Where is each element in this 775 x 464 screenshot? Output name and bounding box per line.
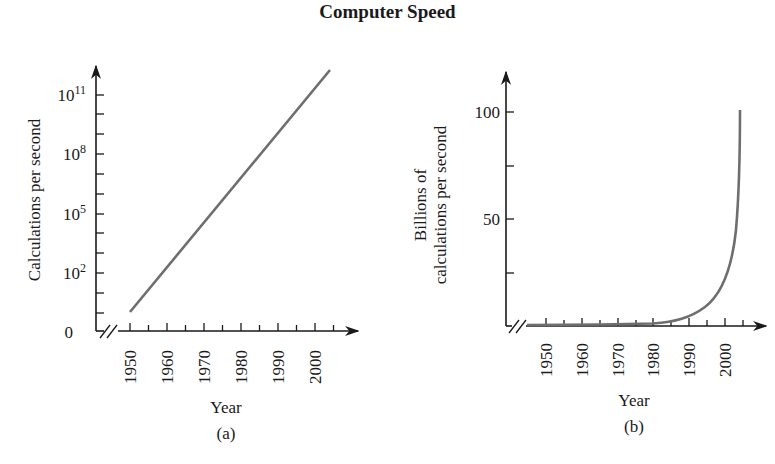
panel-b-x-label: 1990 (680, 343, 699, 377)
panel-b-x-label: 2000 (716, 343, 735, 377)
panel-b-y-axis-title-line1: Billions of (411, 169, 430, 242)
panel-a-x-label: 1970 (195, 350, 214, 384)
panel-b-x-label: 1960 (573, 343, 592, 377)
panel-b: 100 50 Billions of calculations per seco… (411, 72, 766, 436)
panel-b-y-axis-title-line2: calculations per second (431, 125, 450, 284)
panel-a-y-label-1e11: 1011 (57, 83, 86, 105)
panel-a-x-label: 1960 (158, 350, 177, 384)
panel-b-x-axis-title: Year (618, 391, 650, 410)
panel-a-x-label: 1950 (121, 350, 140, 384)
panel-a: 1011 108 105 102 0 Calculations per seco… (25, 66, 358, 443)
panel-b-y-label-50: 50 (483, 210, 500, 229)
panel-a-data-line (130, 70, 330, 312)
panel-a-x-ticks (130, 323, 334, 331)
panel-a-y-axis-title: Calculations per second (25, 118, 44, 281)
panel-b-x-label: 1980 (644, 343, 663, 377)
panel-b-x-label: 1970 (609, 343, 628, 377)
panel-b-y-label-100: 100 (475, 103, 501, 122)
panel-a-y-label-1e8: 108 (63, 142, 86, 164)
panel-a-caption: (a) (217, 424, 236, 443)
panel-a-y-label-1e2: 102 (63, 261, 86, 283)
panel-a-x-label: 1980 (232, 350, 251, 384)
panel-a-y-label-zero: 0 (65, 323, 74, 342)
panel-a-x-label: 1990 (269, 350, 288, 384)
panel-b-x-label: 1950 (537, 343, 556, 377)
figure: 1011 108 105 102 0 Calculations per seco… (0, 0, 775, 464)
panel-a-y-label-1e5: 105 (63, 202, 86, 224)
panel-b-caption: (b) (624, 417, 644, 436)
panel-b-data-curve (527, 110, 740, 325)
panel-b-y-ticks (506, 112, 514, 273)
panel-a-x-axis-title: Year (210, 398, 242, 417)
panel-a-y-ticks (96, 95, 104, 313)
panel-a-x-label: 2000 (306, 350, 325, 384)
